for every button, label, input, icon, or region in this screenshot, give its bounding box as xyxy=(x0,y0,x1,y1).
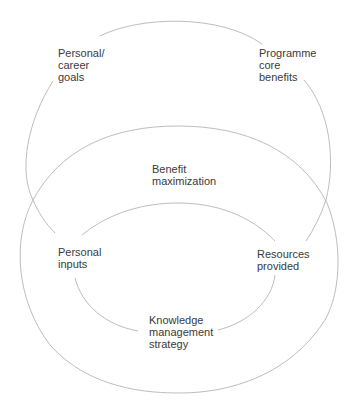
label-personal-career-goals: Personal/ career goals xyxy=(58,47,104,83)
label-line: management xyxy=(149,326,213,338)
label-line: strategy xyxy=(149,338,213,350)
label-line: career xyxy=(58,59,104,71)
label-line: inputs xyxy=(58,258,101,270)
top-cycle-arc-top xyxy=(100,21,262,44)
label-line: Personal/ xyxy=(58,47,104,59)
label-line: Benefit xyxy=(152,163,216,175)
label-knowledge-management-strategy: Knowledge management strategy xyxy=(149,314,213,350)
label-line: provided xyxy=(257,260,310,272)
top-cycle-arc-left xyxy=(26,81,55,233)
label-line: Knowledge xyxy=(149,314,213,326)
label-line: Resources xyxy=(257,248,310,260)
label-line: benefits xyxy=(259,71,316,83)
label-programme-core-benefits: Programme core benefits xyxy=(259,47,316,83)
label-line: goals xyxy=(58,71,104,83)
label-benefit-maximization: Benefit maximization xyxy=(152,163,216,187)
label-line: Personal xyxy=(58,246,101,258)
inner-cycle-arc-left xyxy=(75,278,138,331)
label-line: core xyxy=(259,59,316,71)
inner-cycle-arc-right xyxy=(218,275,275,330)
label-personal-inputs: Personal inputs xyxy=(58,246,101,270)
label-line: Programme xyxy=(259,47,316,59)
label-resources-provided: Resources provided xyxy=(257,248,310,272)
inner-cycle-arc-top xyxy=(82,203,275,241)
label-line: maximization xyxy=(152,175,216,187)
large-cycle-arc-lower xyxy=(20,200,338,393)
top-cycle-arc-right xyxy=(304,80,331,241)
